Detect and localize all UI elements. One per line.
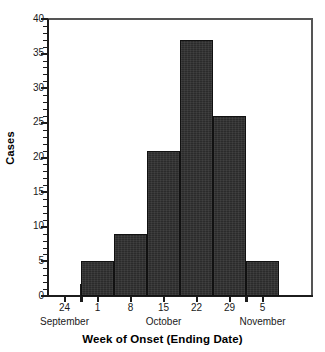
x-month-label-october: October	[146, 317, 182, 327]
x-month-label-september: September	[40, 317, 89, 327]
bar-october-8	[114, 234, 147, 296]
bar-october-29	[213, 116, 246, 296]
bar-october-1	[81, 261, 114, 296]
bar-october-22	[180, 40, 213, 296]
x-month-label-november: November	[239, 317, 285, 327]
y-tick-major-40	[41, 18, 48, 20]
x-axis-title: Week of Onset (Ending Date)	[0, 333, 325, 345]
bar-october-15	[147, 151, 180, 296]
y-tick-major-30	[41, 87, 48, 89]
x-tick-label-oct-15: 15	[158, 303, 169, 313]
x-tick-label-oct-8: 8	[128, 303, 134, 313]
x-axis-month-labels: September October November	[0, 317, 325, 331]
x-axis-date-labels: 24 1 8 15 22 29 5	[0, 303, 325, 317]
epidemic-curve-chart: Cases 40 35 30 25 20 15 10 5 0 24 1 8 15…	[0, 0, 325, 352]
y-tick-major-20	[41, 157, 48, 159]
y-tick-major-35	[41, 53, 48, 55]
y-tick-major-25	[41, 122, 48, 124]
bar-november-5	[246, 261, 279, 296]
x-tick-label-oct-1: 1	[95, 303, 101, 313]
x-tick-label-sep-24: 24	[59, 303, 70, 313]
y-tick-major-5	[41, 260, 48, 262]
x-tick-label-oct-29: 29	[224, 303, 235, 313]
x-tick-label-nov-5: 5	[260, 303, 266, 313]
y-tick-major-15	[41, 191, 48, 193]
plot-area	[48, 19, 312, 296]
y-axis-tick-labels: 40 35 30 25 20 15 10 5 0	[14, 0, 44, 352]
y-tick-major-0	[41, 295, 48, 297]
y-tick-major-10	[41, 226, 48, 228]
x-tick-label-oct-22: 22	[191, 303, 202, 313]
